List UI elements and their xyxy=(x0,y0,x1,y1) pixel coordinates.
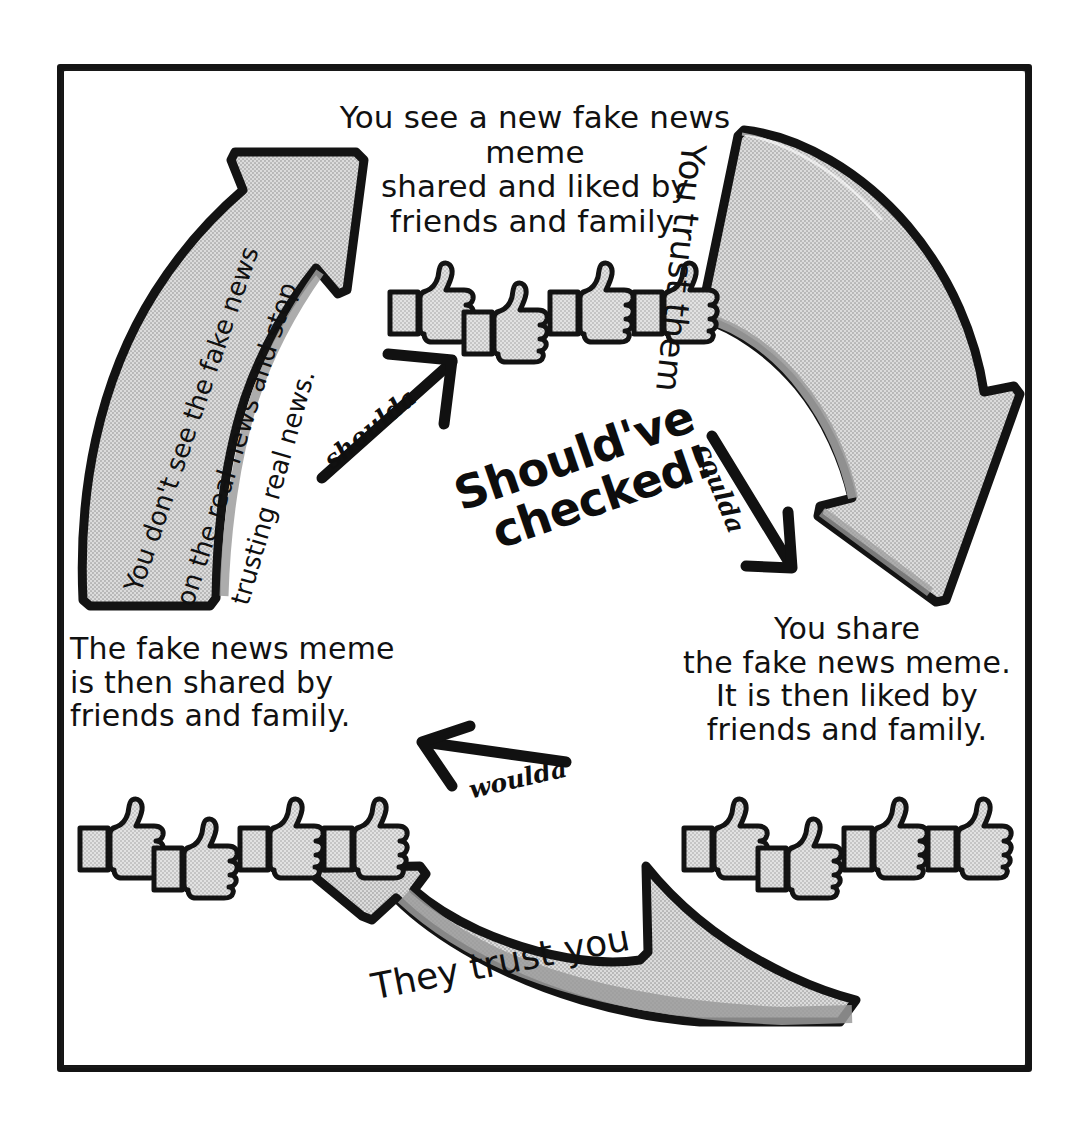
node-text-bottom-left: The fake news meme is then shared by fri… xyxy=(70,632,430,733)
node-text-right: You share the fake news meme. It is then… xyxy=(672,612,1022,746)
diagram-canvas: You see a new fake news meme shared and … xyxy=(0,0,1086,1124)
